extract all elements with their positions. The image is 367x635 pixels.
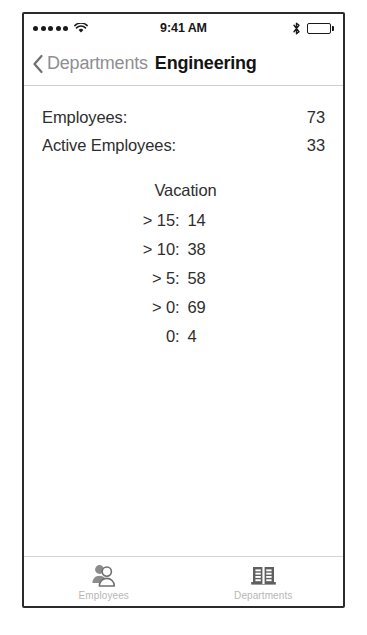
building-icon xyxy=(250,563,277,588)
vacation-key: > 5: xyxy=(114,269,180,288)
vacation-value: 58 xyxy=(180,269,254,288)
vacation-key: > 10: xyxy=(114,240,180,259)
vacation-key: > 0: xyxy=(114,298,180,317)
page-title: Engineering xyxy=(155,53,257,74)
vacation-value: 4 xyxy=(180,327,254,346)
stat-value: 33 xyxy=(307,136,325,155)
status-bar-left xyxy=(33,23,88,34)
vacation-heading: Vacation xyxy=(154,181,216,200)
signal-dots-icon xyxy=(33,26,68,31)
navigation-bar: Departments Engineering xyxy=(24,42,343,86)
vacation-value: 38 xyxy=(180,240,254,259)
vacation-row: > 5: 58 xyxy=(114,269,254,288)
people-icon xyxy=(90,563,117,588)
stats-list: Employees: 73 Active Employees: 33 xyxy=(24,86,343,155)
back-button-label: Departments xyxy=(47,53,148,74)
tab-departments-label: Departments xyxy=(234,590,292,601)
vacation-value: 69 xyxy=(180,298,254,317)
chevron-left-icon xyxy=(32,54,44,74)
device-frame: 9:41 AM xyxy=(22,12,345,608)
bluetooth-icon xyxy=(292,22,301,35)
vacation-key: 0: xyxy=(114,327,180,346)
wifi-icon xyxy=(74,23,88,34)
tab-bar: Employees xyxy=(24,556,343,606)
stat-label: Employees: xyxy=(42,108,127,127)
vacation-key: > 15: xyxy=(114,211,180,230)
stat-row: Active Employees: 33 xyxy=(42,136,325,155)
vacation-section: Vacation > 15: 14 > 10: 38 > 5: 58 > 0: … xyxy=(24,181,343,356)
status-bar-right xyxy=(292,22,334,35)
status-bar: 9:41 AM xyxy=(24,14,343,42)
tab-departments[interactable]: Departments xyxy=(184,557,344,606)
tab-employees[interactable]: Employees xyxy=(24,557,184,606)
battery-full-icon xyxy=(307,23,334,34)
stat-value: 73 xyxy=(307,108,325,127)
vacation-value: 14 xyxy=(180,211,254,230)
app-screen: 9:41 AM xyxy=(24,14,343,606)
stat-label: Active Employees: xyxy=(42,136,176,155)
vacation-row: > 0: 69 xyxy=(114,298,254,317)
tab-employees-label: Employees xyxy=(79,590,129,601)
stat-row: Employees: 73 xyxy=(42,108,325,127)
vacation-row: > 10: 38 xyxy=(114,240,254,259)
vacation-row: > 15: 14 xyxy=(114,211,254,230)
back-button[interactable]: Departments xyxy=(32,53,148,74)
vacation-row: 0: 4 xyxy=(114,327,254,346)
content-area: Employees: 73 Active Employees: 33 Vacat… xyxy=(24,86,343,556)
